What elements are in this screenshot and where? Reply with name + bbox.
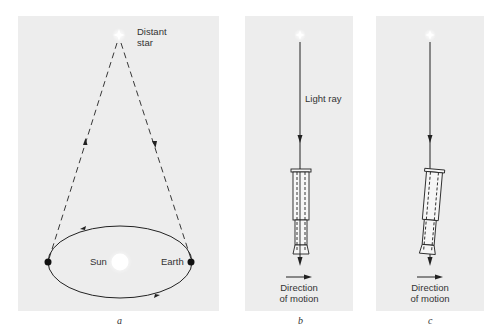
panel-b-caption: b bbox=[298, 315, 303, 326]
panel-b: Light ray Direction of motion b bbox=[245, 16, 353, 326]
earth-position-right-icon bbox=[188, 259, 195, 266]
earth-position-left-icon bbox=[45, 259, 52, 266]
panel-c-caption: c bbox=[428, 315, 433, 326]
sun-label: Sun bbox=[90, 256, 107, 267]
panel-a: Distant star Sun Earth a bbox=[18, 16, 219, 326]
star-label-line2: star bbox=[137, 37, 153, 48]
motion-label-line1: Direction bbox=[280, 282, 318, 293]
sun-icon bbox=[112, 254, 129, 271]
distant-star-icon bbox=[294, 29, 306, 41]
panel-a-caption: a bbox=[117, 315, 122, 326]
distant-star-icon bbox=[112, 28, 126, 42]
motion-label-line1: Direction bbox=[411, 282, 449, 293]
distant-star-icon bbox=[424, 29, 436, 41]
star-label-line1: Distant bbox=[137, 26, 167, 37]
panel-c: Direction of motion c bbox=[376, 16, 484, 326]
motion-label-line2: of motion bbox=[410, 293, 449, 304]
motion-label-line2: of motion bbox=[279, 293, 318, 304]
stellar-aberration-figure: Distant star Sun Earth a Light ray bbox=[0, 0, 500, 333]
light-ray-label: Light ray bbox=[305, 93, 342, 104]
panel-b-background bbox=[245, 16, 353, 311]
earth-label: Earth bbox=[161, 256, 184, 267]
